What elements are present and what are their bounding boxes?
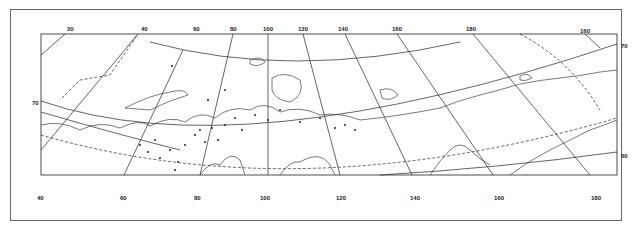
lon-label: 160	[392, 26, 403, 32]
lon-label: 180	[591, 195, 602, 201]
lon-label: 180	[466, 26, 477, 32]
lon-label: 80	[194, 195, 201, 201]
lon-label: 160	[494, 195, 505, 201]
lat-label: 60	[621, 153, 628, 159]
parallels	[41, 42, 617, 175]
bottom-longitude-labels: 40 60 80 100 120 140 160 180	[37, 195, 602, 201]
lon-label: 60	[193, 26, 200, 32]
lat-label: 70	[32, 100, 39, 106]
lon-label: 140	[410, 195, 421, 201]
lon-label: 120	[298, 26, 309, 32]
map-border	[41, 34, 617, 175]
lon-label: 40	[141, 26, 148, 32]
map-canvas: 20 40 60 80 100 120 140 160 180 160 40 6…	[0, 0, 632, 234]
lon-label: 100	[263, 26, 274, 32]
coastlines	[41, 58, 617, 175]
lat-label: 70	[621, 43, 628, 49]
lon-label: 40	[37, 195, 44, 201]
lon-label: 120	[336, 195, 347, 201]
dashed-lines	[41, 34, 617, 169]
lon-label: 20	[67, 26, 74, 32]
lon-label: 60	[120, 195, 127, 201]
top-longitude-labels: 20 40 60 80 100 120 140 160 180 160	[67, 26, 591, 34]
meridians	[41, 34, 600, 175]
lon-label: 160	[580, 28, 591, 34]
lon-label: 80	[230, 26, 237, 32]
lon-label: 100	[260, 195, 271, 201]
lon-label: 140	[338, 26, 349, 32]
station-markers	[139, 65, 356, 171]
